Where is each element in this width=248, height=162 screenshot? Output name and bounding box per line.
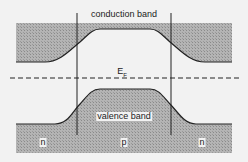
valence-band-label: valence band: [96, 112, 152, 121]
region-label-n-right: n: [198, 138, 205, 147]
region-label-p: p: [120, 138, 127, 147]
conduction-band-label: conduction band: [91, 10, 157, 19]
fermi-level-label: EF: [117, 67, 127, 78]
region-label-n-left: n: [39, 138, 46, 147]
